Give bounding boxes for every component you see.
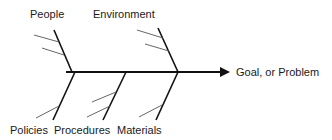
label-goal: Goal, or Problem — [236, 66, 319, 78]
bone-environment — [137, 28, 178, 72]
bone-people — [34, 30, 72, 72]
label-policies: Policies — [10, 124, 48, 136]
bone-materials — [139, 72, 178, 120]
bone-policies — [36, 72, 75, 120]
label-materials: Materials — [117, 124, 162, 136]
label-people: People — [30, 8, 64, 20]
label-environment: Environment — [93, 8, 155, 20]
bone-procedures — [87, 72, 126, 120]
arrow-head-icon — [220, 67, 230, 77]
spine — [66, 67, 230, 77]
label-procedures: Procedures — [54, 124, 110, 136]
